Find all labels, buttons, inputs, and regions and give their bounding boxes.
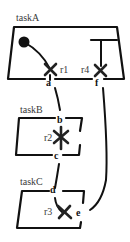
wire-f-to-e xyxy=(90,88,107,210)
task-b-box-right-top xyxy=(66,118,82,131)
port-a: a xyxy=(46,77,51,88)
wire-a-to-b xyxy=(55,88,60,110)
task-diagram: taskA r1 r4 a f taskB b xyxy=(0,0,130,242)
task-a-group: taskA r1 r4 a f xyxy=(8,12,124,88)
task-b-label: taskB xyxy=(20,104,43,115)
wire-c-to-d xyxy=(55,164,59,188)
r3-label: r3 xyxy=(44,206,52,217)
task-a-label: taskA xyxy=(16,12,40,23)
diagram-canvas: taskA r1 r4 a f taskB b xyxy=(0,0,130,242)
terminal-t-bar-icon xyxy=(91,40,117,66)
task-c-label: taskC xyxy=(20,176,43,187)
task-b-box-right-bottom xyxy=(63,145,80,155)
r2-label: r2 xyxy=(44,132,52,143)
task-c-group: taskC d r3 e xyxy=(17,176,84,228)
r3-x-icon xyxy=(58,206,71,218)
task-c-box-right-top xyxy=(63,191,84,203)
port-b: b xyxy=(57,114,63,125)
port-f: f xyxy=(95,77,99,88)
r1-label: r1 xyxy=(60,64,68,75)
r1-x-icon xyxy=(45,64,56,75)
r2-asterisk-icon xyxy=(54,127,68,149)
task-b-group: taskB b r2 c xyxy=(16,104,82,161)
r4-label: r4 xyxy=(81,64,89,75)
port-d: d xyxy=(50,184,56,195)
port-e: e xyxy=(76,207,81,218)
port-c: c xyxy=(54,150,59,161)
